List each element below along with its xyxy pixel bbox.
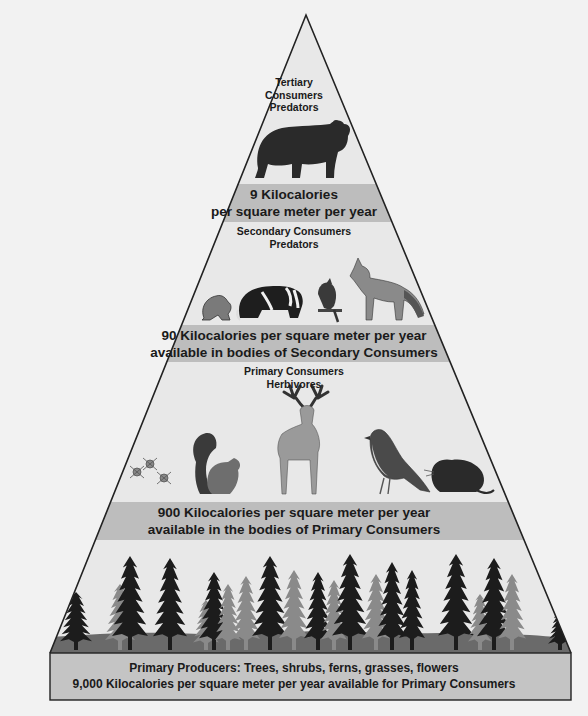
producers-label: Primary Producers: Trees, shrubs, ferns,… (0, 660, 588, 692)
secondary-energy-line-1: 90 Kilocalories per square meter per yea… (0, 327, 588, 344)
secondary-energy-line-2: available in bodies of Secondary Consume… (0, 344, 588, 361)
producers-line-2: 9,000 Kilocalories per square meter per … (0, 676, 588, 692)
primary-energy-label: 900 Kilocalories per square meter per ye… (0, 504, 588, 538)
primary-title-line-1: Primary Consumers (0, 365, 588, 378)
secondary-title-line-2: Predators (0, 238, 588, 251)
tertiary-title: Tertiary Consumers Predators (0, 76, 588, 114)
tertiary-title-line-1: Tertiary (0, 76, 588, 89)
tertiary-energy-line-2: per square meter per year (0, 203, 588, 220)
secondary-energy-label: 90 Kilocalories per square meter per yea… (0, 327, 588, 361)
primary-energy-line-1: 900 Kilocalories per square meter per ye… (0, 504, 588, 521)
primary-title: Primary Consumers Herbivores (0, 365, 588, 390)
primary-energy-line-2: available in the bodies of Primary Consu… (0, 521, 588, 538)
primary-title-line-2: Herbivores (0, 378, 588, 391)
producers-line-1: Primary Producers: Trees, shrubs, ferns,… (0, 660, 588, 676)
secondary-title-line-1: Secondary Consumers (0, 225, 588, 238)
secondary-title: Secondary Consumers Predators (0, 225, 588, 250)
tertiary-title-line-2: Consumers (0, 89, 588, 102)
tertiary-energy-label: 9 Kilocalories per square meter per year (0, 186, 588, 220)
tertiary-title-line-3: Predators (0, 101, 588, 114)
tertiary-energy-line-1: 9 Kilocalories (0, 186, 588, 203)
